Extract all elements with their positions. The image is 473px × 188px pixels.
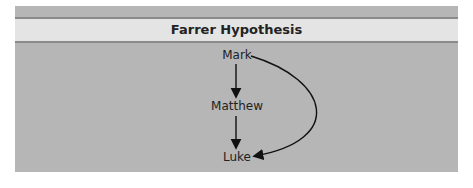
edge-mark-luke: [251, 56, 317, 156]
edges-layer: [0, 0, 473, 188]
